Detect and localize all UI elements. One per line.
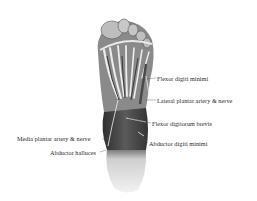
label-flexor-digitorum-brevis: Flexor digitorum brevis	[152, 121, 212, 127]
label-lateral-plantar-artery-nerve: Lateral plantar artery & nerve	[157, 98, 232, 104]
label-media-plantar-artery-nerve: Media plantar artery & nerve	[17, 136, 91, 142]
label-abductor-digiti-minimi: Abductor digiti minimi	[149, 141, 208, 147]
label-abductor-halluces: Abductor halluces	[50, 150, 96, 156]
heel-region	[106, 148, 146, 193]
label-flexor-digiti-minimi: Flexor digiti minimi	[157, 76, 208, 82]
